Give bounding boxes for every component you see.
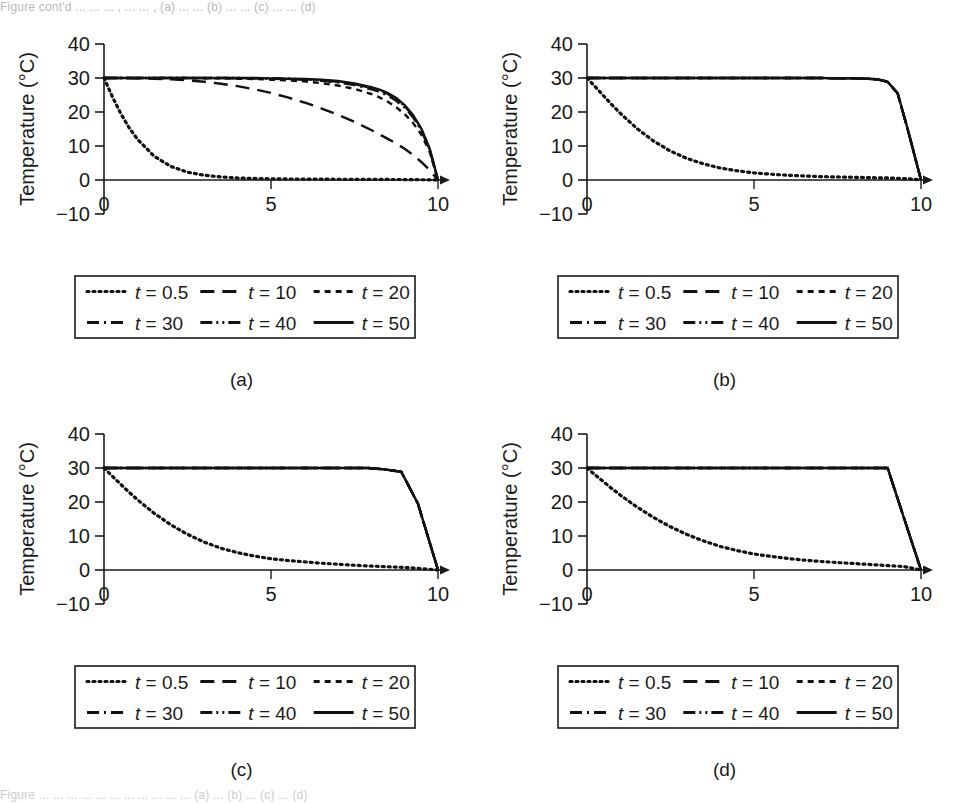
chart-c: 403020100−100510Temperature (°C)Distance…	[0, 404, 483, 794]
x-tick-label: 0	[98, 193, 109, 215]
legend-label: t = 0.5	[618, 282, 671, 303]
y-tick-label: 40	[551, 33, 573, 55]
legend-label: t = 10	[248, 282, 296, 303]
y-tick-label: 40	[551, 423, 573, 445]
legend-label: t = 50	[362, 313, 410, 334]
x-tick-label: 10	[427, 583, 449, 605]
legend-label: t = 20	[362, 282, 410, 303]
y-axis-title: Temperature (°C)	[499, 442, 521, 596]
legend-label: t = 20	[845, 282, 893, 303]
panel-caption: (b)	[713, 369, 736, 390]
y-tick-label: 10	[68, 135, 90, 157]
y-tick-label: −10	[56, 203, 90, 225]
x-tick-label: 10	[910, 583, 932, 605]
legend-label: t = 50	[362, 703, 410, 724]
y-tick-label: 0	[562, 559, 573, 581]
y-tick-label: 10	[68, 525, 90, 547]
series-line	[104, 468, 438, 570]
panel-c: 403020100−100510Temperature (°C)Distance…	[0, 404, 483, 794]
legend-label: t = 10	[731, 672, 779, 693]
series-line	[104, 468, 438, 570]
legend-label: t = 0.5	[618, 672, 671, 693]
y-tick-label: 30	[551, 67, 573, 89]
y-tick-label: −10	[539, 203, 573, 225]
legend-label: t = 30	[618, 703, 666, 724]
x-tick-label: 0	[581, 583, 592, 605]
series-line	[587, 468, 921, 570]
legend-label: t = 40	[248, 313, 296, 334]
y-axis-title: Temperature (°C)	[16, 442, 38, 596]
legend-label: t = 10	[248, 672, 296, 693]
panel-caption: (d)	[713, 759, 736, 780]
y-tick-label: 10	[551, 135, 573, 157]
x-tick-label: 10	[427, 193, 449, 215]
y-tick-label: −10	[56, 593, 90, 615]
y-tick-label: 40	[68, 423, 90, 445]
y-tick-label: 0	[79, 169, 90, 191]
x-tick-label: 0	[581, 193, 592, 215]
x-tick-label: 0	[98, 583, 109, 605]
y-axis-title: Temperature (°C)	[499, 52, 521, 206]
legend-label: t = 40	[248, 703, 296, 724]
y-axis-title: Temperature (°C)	[16, 52, 38, 206]
x-axis-arrow-icon	[923, 566, 933, 575]
legend-label: t = 0.5	[135, 672, 188, 693]
series-line	[104, 78, 438, 180]
panel-caption: (c)	[230, 759, 252, 780]
y-tick-label: 20	[68, 491, 90, 513]
chart-b: 403020100−100510Temperature (°C)Distance…	[483, 14, 966, 404]
x-tick-label: 10	[910, 193, 932, 215]
x-tick-label: 5	[748, 193, 759, 215]
series-line	[104, 468, 438, 570]
legend-label: t = 50	[845, 313, 893, 334]
y-tick-label: 30	[68, 457, 90, 479]
y-tick-label: −10	[539, 593, 573, 615]
figure-top-caption: Figure cont'd ... ... ... , ... ... , (a…	[0, 0, 966, 14]
y-tick-label: 40	[68, 33, 90, 55]
legend-label: t = 10	[731, 282, 779, 303]
y-tick-label: 0	[79, 559, 90, 581]
series-line	[104, 468, 438, 570]
panel-caption: (a)	[230, 369, 253, 390]
x-axis-arrow-icon	[440, 566, 450, 575]
x-tick-label: 5	[265, 583, 276, 605]
legend-label: t = 30	[135, 313, 183, 334]
y-tick-label: 20	[551, 491, 573, 513]
y-tick-label: 30	[68, 67, 90, 89]
y-tick-label: 30	[551, 457, 573, 479]
y-tick-label: 20	[68, 101, 90, 123]
legend-label: t = 50	[845, 703, 893, 724]
x-axis-arrow-icon	[923, 176, 933, 185]
legend-label: t = 40	[731, 313, 779, 334]
legend-label: t = 20	[845, 672, 893, 693]
legend-label: t = 20	[362, 672, 410, 693]
legend-label: t = 0.5	[135, 282, 188, 303]
chart-d: 403020100−100510Temperature (°C)Distance…	[483, 404, 966, 794]
legend-label: t = 30	[135, 703, 183, 724]
x-tick-label: 5	[748, 583, 759, 605]
x-axis-arrow-icon	[440, 176, 450, 185]
legend-label: t = 30	[618, 313, 666, 334]
y-tick-label: 10	[551, 525, 573, 547]
chart-a: 403020100−100510Temperature (°C)Distance…	[0, 14, 483, 404]
series-line	[104, 468, 438, 570]
panel-d: 403020100−100510Temperature (°C)Distance…	[483, 404, 966, 794]
figure-container: Figure cont'd ... ... ... , ... ... , (a…	[0, 0, 966, 804]
series-line	[587, 78, 921, 180]
y-tick-label: 0	[562, 169, 573, 191]
figure-bottom-caption: Figure ... ... ... ... ... ... ... ... .…	[0, 788, 966, 804]
legend-label: t = 40	[731, 703, 779, 724]
panel-a: 403020100−100510Temperature (°C)Distance…	[0, 14, 483, 404]
series-line	[104, 468, 438, 570]
y-tick-label: 20	[551, 101, 573, 123]
x-tick-label: 5	[265, 193, 276, 215]
panel-b: 403020100−100510Temperature (°C)Distance…	[483, 14, 966, 404]
